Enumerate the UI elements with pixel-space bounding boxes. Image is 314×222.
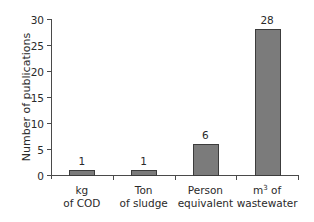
bar <box>70 171 95 176</box>
bar-value-label: 6 <box>190 129 220 141</box>
bar <box>256 30 281 176</box>
x-category-label-line: of COD <box>49 197 115 210</box>
x-category-label: Tonof sludge <box>111 184 177 210</box>
y-tick-label: 25 <box>24 40 44 52</box>
x-category-label: m3 ofwastewater <box>234 184 300 210</box>
y-tick-label: 5 <box>24 144 44 156</box>
y-tick-label: 10 <box>24 118 44 130</box>
x-category-label-line: wastewater <box>234 197 300 210</box>
x-category-label-line: equivalent <box>172 197 238 210</box>
y-tick-label: 30 <box>24 14 44 26</box>
bar <box>194 145 219 176</box>
x-category-label: kgof COD <box>49 184 115 210</box>
bar-value-label: 1 <box>67 155 97 167</box>
y-tick-label: 20 <box>24 66 44 78</box>
y-tick-label: 0 <box>24 170 44 182</box>
x-category-label-line: of sludge <box>111 197 177 210</box>
bar-value-label: 28 <box>252 14 282 26</box>
x-category-label-line: Person <box>172 184 238 197</box>
bar-chart: Number of publications 0510152025301kgof… <box>0 0 314 222</box>
x-category-label-line: Ton <box>111 184 177 197</box>
x-category-label-line: m3 of <box>234 184 300 197</box>
y-tick-label: 15 <box>24 92 44 104</box>
x-category-label-line: kg <box>49 184 115 197</box>
x-category-label: Personequivalent <box>172 184 238 210</box>
bar <box>132 171 157 176</box>
bar-value-label: 1 <box>129 155 159 167</box>
